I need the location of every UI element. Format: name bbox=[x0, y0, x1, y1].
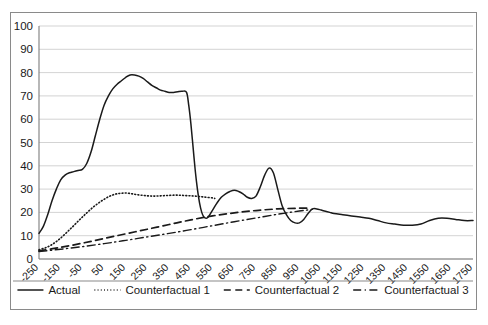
x-tick-label: 750 bbox=[237, 261, 258, 282]
x-tick-label: 1650 bbox=[428, 261, 453, 286]
x-tick-label: 1150 bbox=[320, 261, 345, 286]
chart-frame: 0102030405060708090100 -250-150-50501502… bbox=[10, 12, 477, 310]
x-tick-label: 650 bbox=[215, 261, 236, 282]
y-axis-tick-labels: 0102030405060708090100 bbox=[14, 20, 33, 265]
x-tick-label: 1550 bbox=[406, 261, 431, 286]
y-tick-label: 70 bbox=[20, 90, 33, 102]
x-tick-label: 250 bbox=[128, 261, 149, 282]
x-tick-label: 850 bbox=[258, 261, 279, 282]
x-tick-label: 1750 bbox=[449, 261, 474, 286]
series-line-actual bbox=[39, 75, 473, 234]
data-series-group bbox=[39, 75, 473, 252]
x-tick-label: 450 bbox=[171, 261, 192, 282]
series-line-counterfactual-1 bbox=[39, 193, 215, 250]
series-line-counterfactual-2 bbox=[39, 208, 310, 251]
x-tick-label: -50 bbox=[65, 261, 84, 280]
x-tick-label: 150 bbox=[106, 261, 127, 282]
gridlines bbox=[39, 26, 473, 259]
series-line-counterfactual-3 bbox=[39, 209, 312, 251]
y-tick-label: 40 bbox=[20, 160, 33, 172]
legend-label: Counterfactual 3 bbox=[384, 284, 468, 296]
legend-label: Counterfactual 1 bbox=[125, 284, 209, 296]
x-tick-label: 50 bbox=[89, 261, 106, 278]
y-tick-label: 50 bbox=[20, 137, 33, 149]
x-tick-label: 1450 bbox=[384, 261, 409, 286]
x-tick-label: 1350 bbox=[363, 261, 388, 286]
y-tick-label: 10 bbox=[20, 230, 33, 242]
x-axis-tick-labels: -250-150-5050150250350450550650750850950… bbox=[17, 261, 474, 286]
x-tick-label: 1050 bbox=[298, 261, 323, 286]
legend-label: Counterfactual 2 bbox=[255, 284, 339, 296]
x-tick-label: 350 bbox=[150, 261, 171, 282]
line-chart: 0102030405060708090100 -250-150-50501502… bbox=[11, 13, 475, 308]
legend-label: Actual bbox=[48, 284, 80, 296]
x-tick-label: 550 bbox=[193, 261, 214, 282]
y-tick-label: 20 bbox=[20, 206, 33, 218]
y-tick-label: 100 bbox=[14, 20, 33, 32]
x-tick-label: 1250 bbox=[341, 261, 366, 286]
y-tick-label: 90 bbox=[20, 43, 33, 55]
y-tick-label: 60 bbox=[20, 113, 33, 125]
y-tick-label: 30 bbox=[20, 183, 33, 195]
y-tick-label: 80 bbox=[20, 67, 33, 79]
legend: ActualCounterfactual 1Counterfactual 2Co… bbox=[13, 281, 473, 296]
